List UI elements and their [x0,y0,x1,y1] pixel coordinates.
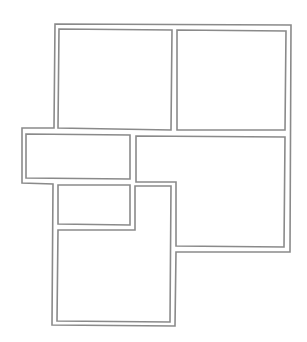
outer-wall [22,24,291,326]
room-top-left [58,29,172,130]
floor-plan-diagram [0,0,307,342]
room-middle-left [26,134,130,179]
room-small-closet [58,185,130,225]
room-bottom [57,186,171,322]
room-top-right [177,30,286,130]
floor-plan-canvas [0,0,307,342]
room-middle-right [136,136,285,247]
